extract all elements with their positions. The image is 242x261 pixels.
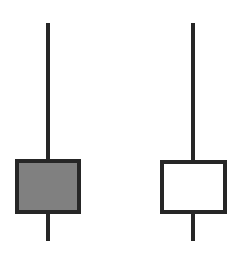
lower-wick: [46, 213, 50, 241]
filled-candle-body: [15, 159, 81, 214]
upper-wick: [46, 23, 50, 161]
lower-wick: [191, 213, 195, 241]
upper-wick: [191, 23, 195, 162]
candlestick-diagram: [0, 0, 242, 261]
hollow-candle-body: [160, 160, 227, 214]
